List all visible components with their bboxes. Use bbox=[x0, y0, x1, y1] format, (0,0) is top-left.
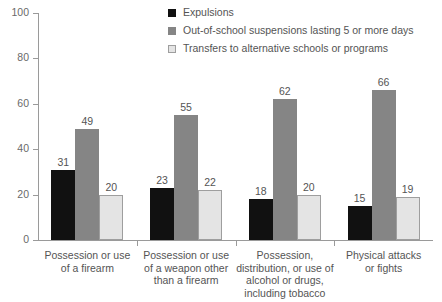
bar[interactable] bbox=[174, 115, 198, 240]
bar-value-label: 31 bbox=[58, 156, 70, 168]
bar-value-label: 66 bbox=[378, 76, 390, 88]
bar-value-label: 15 bbox=[354, 192, 366, 204]
bar-slot: 15 bbox=[348, 13, 372, 240]
bar-value-label: 19 bbox=[402, 183, 414, 195]
bars-container: 186220 bbox=[249, 13, 321, 240]
y-axis-tick-label: 80 bbox=[17, 51, 29, 63]
bar[interactable] bbox=[273, 99, 297, 240]
x-axis-separator-tick bbox=[334, 240, 335, 246]
bar[interactable] bbox=[396, 197, 420, 240]
y-axis-tick-label: 100 bbox=[11, 6, 29, 18]
category-label-line: or fights bbox=[334, 262, 433, 275]
bar-group: 314920 bbox=[38, 13, 137, 240]
bar[interactable] bbox=[150, 188, 174, 240]
category-label-line: Possession, bbox=[236, 249, 335, 262]
bar-slot: 62 bbox=[273, 13, 297, 240]
bar-value-label: 62 bbox=[279, 85, 291, 97]
bar-value-label: 20 bbox=[303, 181, 315, 193]
bar-slot: 22 bbox=[198, 13, 222, 240]
bar-slot: 55 bbox=[174, 13, 198, 240]
category-label-line: Physical attacks bbox=[334, 249, 433, 262]
category-label-line: than a firearm bbox=[137, 274, 236, 287]
bar-value-label: 55 bbox=[180, 101, 192, 113]
category-label-line: distribution, or use of bbox=[236, 262, 335, 275]
bar[interactable] bbox=[198, 190, 222, 240]
bar[interactable] bbox=[75, 129, 99, 240]
bars-container: 235522 bbox=[150, 13, 222, 240]
bar-slot: 18 bbox=[249, 13, 273, 240]
bar-groups: 314920235522186220156619 bbox=[38, 13, 433, 240]
bar[interactable] bbox=[51, 170, 75, 240]
category-label-1: Possession or useof a weapon otherthan a… bbox=[137, 249, 236, 287]
y-axis-tick-label: 60 bbox=[17, 97, 29, 109]
y-axis-tick: 0 bbox=[33, 240, 38, 241]
bar-group: 235522 bbox=[137, 13, 236, 240]
bar-value-label: 18 bbox=[255, 185, 267, 197]
category-label-2: Possession,distribution, or use ofalcoho… bbox=[236, 249, 335, 299]
y-axis-tick-label: 40 bbox=[17, 142, 29, 154]
bar-value-label: 20 bbox=[106, 181, 118, 193]
bar-slot: 20 bbox=[297, 13, 321, 240]
bar-slot: 49 bbox=[75, 13, 99, 240]
bar-slot: 66 bbox=[372, 13, 396, 240]
bar-slot: 20 bbox=[99, 13, 123, 240]
bar[interactable] bbox=[99, 195, 123, 240]
category-label-3: Physical attacksor fights bbox=[334, 249, 433, 274]
bar[interactable] bbox=[297, 195, 321, 240]
bar[interactable] bbox=[372, 90, 396, 240]
bar-group: 186220 bbox=[236, 13, 335, 240]
category-labels: Possession or useof a firearmPossession … bbox=[38, 249, 433, 302]
bars-container: 156619 bbox=[348, 13, 420, 240]
bar-slot: 31 bbox=[51, 13, 75, 240]
bar-chart: ExpulsionsOut-of-school suspensions last… bbox=[0, 0, 442, 302]
category-label-0: Possession or useof a firearm bbox=[38, 249, 137, 274]
category-label-line: including tobacco bbox=[236, 287, 335, 300]
plot-area: 020406080100 314920235522186220156619 bbox=[38, 13, 433, 240]
bar-value-label: 23 bbox=[156, 174, 168, 186]
category-label-line: Possession or use bbox=[38, 249, 137, 262]
bar-slot: 19 bbox=[396, 13, 420, 240]
category-label-line: of a weapon other bbox=[137, 262, 236, 275]
x-axis-separator-tick bbox=[236, 240, 237, 246]
bar-slot: 23 bbox=[150, 13, 174, 240]
bar[interactable] bbox=[249, 199, 273, 240]
y-axis-tick-label: 20 bbox=[17, 188, 29, 200]
bar-value-label: 49 bbox=[82, 115, 94, 127]
bar[interactable] bbox=[348, 206, 372, 240]
bar-value-label: 22 bbox=[204, 176, 216, 188]
bars-container: 314920 bbox=[51, 13, 123, 240]
bar-group: 156619 bbox=[334, 13, 433, 240]
category-label-line: of a firearm bbox=[38, 262, 137, 275]
y-axis-tick-label: 0 bbox=[23, 233, 29, 245]
category-label-line: Possession or use bbox=[137, 249, 236, 262]
category-label-line: alcohol or drugs, bbox=[236, 274, 335, 287]
x-axis-separator-tick bbox=[137, 240, 138, 246]
